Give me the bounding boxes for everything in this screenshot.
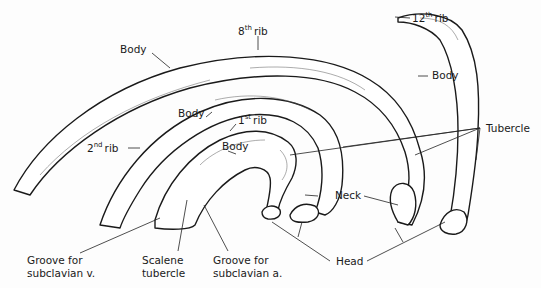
label-rib2-body: Body — [178, 107, 205, 119]
label-head: Head — [336, 255, 363, 267]
label-rib1-body: Body — [222, 140, 249, 152]
label-rib1: 1strib — [238, 113, 267, 126]
diagram-svg: Body 8thrib 12thrib Body Body 2ndrib 1st… — [0, 0, 541, 288]
label-scalene-2: tubercle — [142, 267, 185, 279]
rib-anatomy-diagram: Body 8thrib 12thrib Body Body 2ndrib 1st… — [0, 0, 541, 288]
label-rib8: 8thrib — [238, 24, 268, 37]
label-rib8-body: Body — [120, 43, 147, 55]
label-groove-artery-2: subclavian a. — [213, 267, 282, 279]
label-tubercle: Tubercle — [485, 122, 530, 134]
label-rib12-body: Body — [432, 69, 459, 81]
label-rib2: 2ndrib — [87, 141, 119, 154]
label-groove-vein-2: subclavian v. — [27, 267, 95, 279]
label-neck: Neck — [335, 189, 362, 201]
label-groove-vein-1: Groove for — [27, 254, 83, 266]
label-scalene-1: Scalene — [142, 254, 183, 266]
label-groove-artery-1: Groove for — [213, 254, 269, 266]
